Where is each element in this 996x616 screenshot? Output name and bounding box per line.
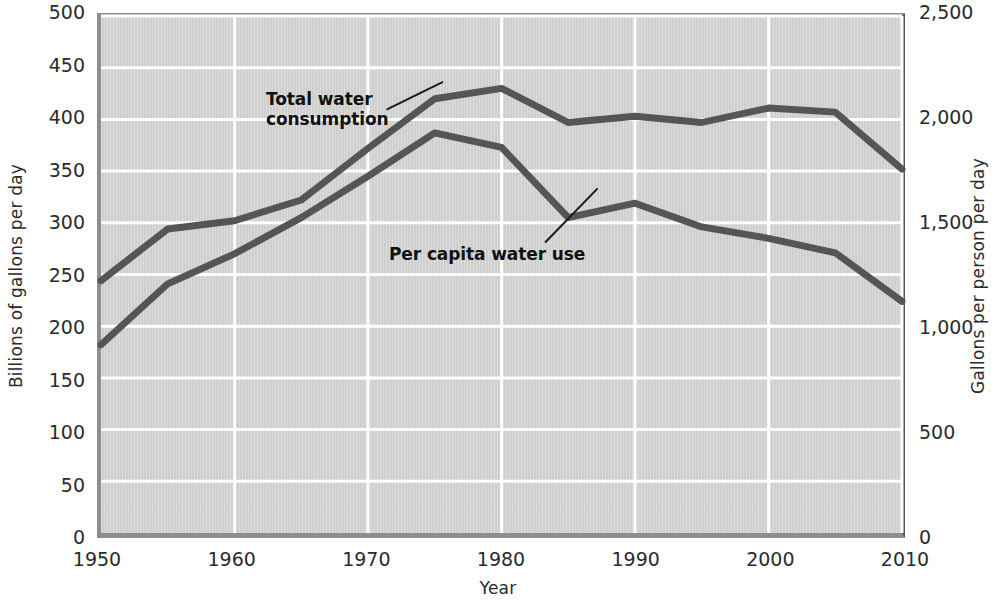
y-axis-right-title: Gallons per person per day <box>968 126 988 426</box>
x-axis-title: Year <box>0 578 996 598</box>
y-tick-right: 0 <box>919 528 931 547</box>
y-tick-right: 500 <box>919 423 955 442</box>
y-tick-left: 350 <box>0 161 85 180</box>
x-tick: 2000 <box>710 550 830 569</box>
chart-figure: Billions of gallons per day Gallons per … <box>0 0 996 616</box>
x-tick: 1990 <box>576 550 696 569</box>
x-tick: 1950 <box>37 550 157 569</box>
y-tick-left: 150 <box>0 371 85 390</box>
y-tick-left: 450 <box>0 56 85 75</box>
per-capita-water-use-label: Per capita water use <box>389 244 585 264</box>
y-tick-left: 250 <box>0 266 85 285</box>
y-tick-right: 2,500 <box>919 3 973 22</box>
y-tick-left: 100 <box>0 423 85 442</box>
y-tick-left: 500 <box>0 3 85 22</box>
y-tick-right: 1,000 <box>919 318 973 337</box>
series-layer <box>101 16 902 533</box>
y-tick-left: 0 <box>0 528 85 547</box>
x-tick: 1970 <box>306 550 426 569</box>
y-tick-right: 2,000 <box>919 108 973 127</box>
x-tick: 1960 <box>172 550 292 569</box>
y-tick-left: 200 <box>0 318 85 337</box>
y-tick-left: 300 <box>0 213 85 232</box>
plot-area: Total water consumption Per capita water… <box>97 13 905 538</box>
x-tick: 1980 <box>441 550 561 569</box>
x-tick: 2010 <box>845 550 965 569</box>
total-water-consumption-label: Total water consumption <box>266 89 389 129</box>
y-tick-left: 400 <box>0 108 85 127</box>
y-tick-left: 50 <box>0 476 85 495</box>
y-tick-right: 1,500 <box>919 213 973 232</box>
plot-inner: Total water consumption Per capita water… <box>101 16 902 533</box>
